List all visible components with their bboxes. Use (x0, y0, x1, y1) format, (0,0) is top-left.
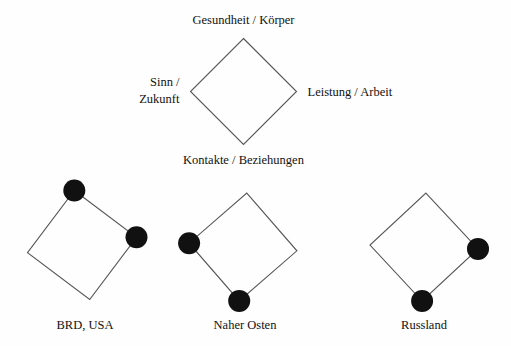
axis-label-left-line1: Sinn / (150, 75, 180, 89)
group-diamond-russland: Russland (370, 193, 489, 332)
emphasis-dot-left (178, 232, 200, 254)
diamond-outline (370, 193, 478, 301)
axis-label-left-line2: Zukunft (139, 92, 180, 106)
emphasis-dot-top (63, 180, 85, 202)
diagram-canvas: Gesundheit / Körper Leistung / Arbeit Ko… (0, 0, 511, 346)
legend-diamond-outline (191, 39, 297, 145)
emphasis-dot-right (126, 226, 148, 248)
group-diamonds-layer: BRD, USANaher OstenRussland (28, 180, 490, 333)
group-label: Russland (401, 318, 448, 332)
axis-label-right: Leistung / Arbeit (308, 85, 393, 99)
group-diamond-naher-osten: Naher Osten (178, 193, 297, 332)
axis-label-top: Gesundheit / Körper (192, 13, 295, 27)
diamond-outline (28, 191, 137, 300)
emphasis-dot-bottom (228, 290, 250, 312)
group-diamond-brd-usa: BRD, USA (28, 180, 148, 333)
diamond-outline (189, 193, 297, 301)
legend-diamond-group: Gesundheit / Körper Leistung / Arbeit Ko… (139, 13, 393, 167)
group-label: BRD, USA (57, 318, 114, 332)
group-label: Naher Osten (214, 318, 278, 332)
value-orientation-diagram: Gesundheit / Körper Leistung / Arbeit Ko… (0, 0, 511, 346)
emphasis-dot-bottom (411, 290, 433, 312)
axis-label-bottom: Kontakte / Beziehungen (183, 153, 305, 167)
emphasis-dot-right (467, 238, 489, 260)
